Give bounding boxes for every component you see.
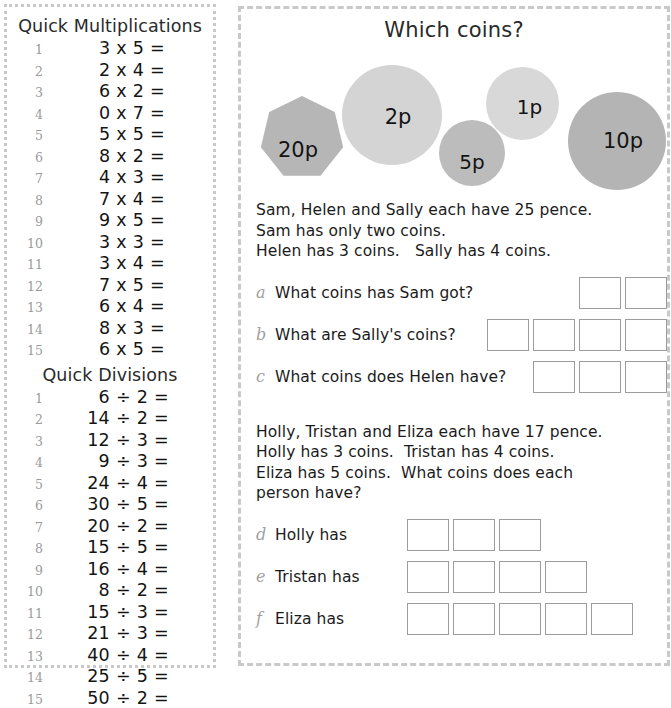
drill-row: 68 x 2 =	[7, 146, 213, 168]
drill-row-expression: 6 x 5 =	[45, 339, 213, 361]
drill-row-number: 13	[7, 297, 45, 319]
answer-box[interactable]	[591, 603, 633, 635]
drill-row-expression: 2 x 4 =	[45, 60, 213, 82]
multiplications-list: 13 x 5 =22 x 4 =36 x 2 =40 x 7 =55 x 5 =…	[7, 38, 213, 361]
page-title: Which coins?	[241, 18, 667, 42]
drill-row: 87 x 4 =	[7, 189, 213, 211]
drill-row: 1425 ÷ 5 =	[7, 666, 213, 688]
answer-box[interactable]	[499, 603, 541, 635]
drill-row-expression: 21 ÷ 3 =	[45, 623, 213, 645]
coin-illustration-group: 20p 2p 5p 1p 10p	[241, 44, 667, 196]
drill-row-number: 9	[7, 211, 45, 233]
answer-box[interactable]	[533, 319, 575, 351]
drill-row: 630 ÷ 5 =	[7, 494, 213, 516]
answer-box[interactable]	[453, 519, 495, 551]
drill-row-expression: 8 ÷ 2 =	[45, 580, 213, 602]
drill-row-expression: 20 ÷ 2 =	[45, 516, 213, 538]
question-text: Holly has	[275, 526, 407, 544]
drill-row-expression: 6 ÷ 2 =	[45, 387, 213, 409]
drill-row-number: 11	[7, 254, 45, 276]
answer-box[interactable]	[625, 361, 667, 393]
coin-10p: 10p	[568, 92, 666, 190]
drill-row-expression: 3 x 3 =	[45, 232, 213, 254]
drill-row: 815 ÷ 5 =	[7, 537, 213, 559]
drill-row-number: 15	[7, 689, 45, 708]
question-row: aWhat coins has Sam got?	[241, 272, 667, 314]
drill-row-expression: 0 x 7 =	[45, 103, 213, 125]
answer-box[interactable]	[407, 519, 449, 551]
answer-box-group	[407, 603, 633, 635]
drill-row-number: 8	[7, 538, 45, 560]
statement-line: person have?	[256, 483, 667, 504]
which-coins-panel: Which coins? 20p 2p 5p 1p 10p Sam, Helen…	[238, 6, 670, 666]
answer-box[interactable]	[499, 561, 541, 593]
drill-row: 103 x 3 =	[7, 232, 213, 254]
statement-line: Helen has 3 coins. Sally has 4 coins.	[256, 241, 667, 262]
question-letter: d	[256, 525, 275, 544]
drill-row-expression: 7 x 4 =	[45, 189, 213, 211]
drill-row-expression: 15 ÷ 5 =	[45, 537, 213, 559]
answer-box[interactable]	[453, 603, 495, 635]
drill-row-number: 13	[7, 646, 45, 668]
coin-2p: 2p	[342, 65, 442, 165]
coin-2p-label: 2p	[385, 105, 412, 129]
answer-box[interactable]	[453, 561, 495, 593]
answer-box[interactable]	[407, 561, 449, 593]
drill-row: 524 ÷ 4 =	[7, 473, 213, 495]
drill-row: 108 ÷ 2 =	[7, 580, 213, 602]
answer-box-group	[487, 319, 667, 351]
answer-box[interactable]	[579, 277, 621, 309]
question-row: fEliza has	[241, 598, 667, 640]
drill-row-number: 12	[7, 624, 45, 646]
drill-row-expression: 24 ÷ 4 =	[45, 473, 213, 495]
answer-box[interactable]	[579, 319, 621, 351]
divisions-heading: Quick Divisions	[7, 365, 213, 385]
drill-row-number: 5	[7, 474, 45, 496]
answer-box[interactable]	[545, 603, 587, 635]
problem-2-questions: dHolly haseTristan hasfEliza has	[241, 514, 667, 640]
statement-line: Holly, Tristan and Eliza each have 17 pe…	[256, 422, 667, 443]
drill-row-expression: 40 ÷ 4 =	[45, 645, 213, 667]
multiplications-heading: Quick Multiplications	[7, 16, 213, 36]
drill-row: 1340 ÷ 4 =	[7, 645, 213, 667]
question-letter: c	[256, 367, 275, 386]
drill-row-expression: 15 ÷ 3 =	[45, 602, 213, 624]
drill-row: 1221 ÷ 3 =	[7, 623, 213, 645]
coin-20p: 20p	[260, 96, 344, 180]
drill-row-number: 10	[7, 233, 45, 255]
drill-row-number: 6	[7, 147, 45, 169]
drill-row-expression: 6 x 4 =	[45, 296, 213, 318]
drill-row: 156 x 5 =	[7, 339, 213, 361]
drill-row: 49 ÷ 3 =	[7, 451, 213, 473]
drill-row-expression: 8 x 3 =	[45, 318, 213, 340]
statement-line: Holly has 3 coins. Tristan has 4 coins.	[256, 442, 667, 463]
drill-row-number: 3	[7, 431, 45, 453]
drill-row-expression: 16 ÷ 4 =	[45, 559, 213, 581]
answer-box[interactable]	[533, 361, 575, 393]
answer-box[interactable]	[407, 603, 449, 635]
answer-box-group	[407, 519, 541, 551]
statement-line: Eliza has 5 coins. What coins does each	[256, 463, 667, 484]
coin-5p-label: 5p	[459, 150, 484, 174]
drill-row-expression: 4 x 3 =	[45, 167, 213, 189]
drill-row-expression: 50 ÷ 2 =	[45, 688, 213, 708]
answer-box[interactable]	[487, 319, 529, 351]
coin-20p-label: 20p	[278, 138, 318, 162]
statement-line: Sam, Helen and Sally each have 25 pence.	[256, 200, 667, 221]
answer-box-group	[579, 277, 667, 309]
answer-box[interactable]	[625, 319, 667, 351]
answer-box[interactable]	[545, 561, 587, 593]
drill-row-number: 2	[7, 61, 45, 83]
answer-box[interactable]	[625, 277, 667, 309]
statement-line: Sam has only two coins.	[256, 221, 667, 242]
problem-1-questions: aWhat coins has Sam got?bWhat are Sally'…	[241, 272, 667, 398]
question-letter: f	[256, 609, 275, 628]
drill-row-number: 10	[7, 581, 45, 603]
answer-box[interactable]	[499, 519, 541, 551]
drill-row-expression: 8 x 2 =	[45, 146, 213, 168]
drill-row: 1550 ÷ 2 =	[7, 688, 213, 708]
drill-row-number: 1	[7, 39, 45, 61]
drill-row: 74 x 3 =	[7, 167, 213, 189]
answer-box[interactable]	[579, 361, 621, 393]
drill-row-number: 3	[7, 82, 45, 104]
